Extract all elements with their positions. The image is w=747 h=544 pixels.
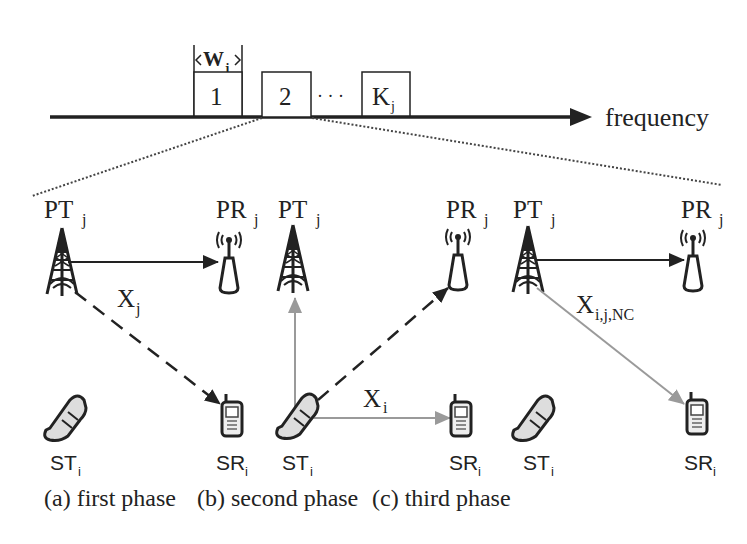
svg-text:j: j	[718, 211, 723, 229]
sr-label: SR	[684, 451, 713, 474]
svg-text:j: j	[135, 300, 140, 318]
signal-label: X	[363, 385, 381, 412]
panel-third-phase: PT j PR j X i,j,NC ST i SR i (c) third p…	[372, 196, 723, 511]
mobile-phone-icon	[222, 394, 242, 436]
link-st-pr	[318, 288, 448, 400]
svg-text:j: j	[483, 211, 488, 229]
cognitive-radio-phases-diagram: frequency W j 1 2 · · · K j PT	[0, 0, 747, 544]
svg-text:1: 1	[210, 83, 223, 110]
caption-first-phase: (a) first phase	[44, 485, 176, 511]
mobile-phone-icon	[451, 394, 471, 436]
sr-label: SR	[449, 451, 478, 474]
frequency-axis: frequency W j 1 2 · · · K j	[50, 45, 709, 132]
svg-text:j: j	[315, 211, 320, 229]
channel-2: 2	[262, 72, 311, 117]
caption-second-phase: (b) second phase	[197, 485, 358, 511]
channel-k: K j	[362, 72, 410, 116]
left-arrow-icon	[196, 55, 201, 65]
svg-text:i,j,NC: i,j,NC	[595, 306, 634, 324]
mobile-phone-icon	[687, 392, 707, 434]
svg-text:i: i	[78, 464, 81, 479]
pr-label: PR	[216, 196, 247, 223]
receiver-antenna-icon	[681, 230, 705, 291]
pt-label: PT	[278, 196, 307, 223]
svg-text:i: i	[383, 399, 388, 416]
signal-label: X	[117, 285, 135, 312]
svg-text:j: j	[81, 211, 86, 229]
transmitter-tower-icon	[278, 225, 308, 293]
svg-text:i: i	[245, 464, 248, 479]
svg-text:i: i	[310, 464, 313, 479]
svg-text:j: j	[253, 211, 258, 229]
st-label: ST	[282, 451, 309, 474]
sr-label: SR	[216, 451, 245, 474]
svg-text:j: j	[550, 211, 555, 229]
bandwidth-label: W	[203, 47, 224, 71]
channel-ellipsis: · · ·	[317, 86, 344, 106]
st-label: ST	[50, 451, 77, 474]
channel-1: 1	[194, 72, 242, 116]
axis-arrow-icon	[570, 108, 592, 126]
signal-label: X	[576, 291, 594, 318]
flip-phone-icon	[277, 394, 318, 439]
panel-first-phase: PT j PR j X j ST i SR i (a) first phase	[44, 196, 258, 511]
svg-text:i: i	[551, 464, 554, 479]
flip-phone-icon	[45, 396, 86, 441]
st-label: ST	[523, 451, 550, 474]
svg-text:K: K	[372, 83, 390, 110]
flip-phone-icon	[513, 396, 554, 441]
receiver-antenna-icon	[217, 232, 241, 293]
link-pt-sr	[75, 292, 220, 404]
svg-text:2: 2	[279, 83, 292, 110]
svg-text:i: i	[713, 464, 716, 479]
svg-text:j: j	[390, 99, 395, 114]
pr-label: PR	[446, 196, 477, 223]
right-arrow-icon	[235, 55, 240, 65]
svg-text:i: i	[478, 464, 481, 479]
frequency-label: frequency	[605, 103, 709, 132]
receiver-antenna-icon	[446, 229, 470, 290]
zoom-line-left	[32, 118, 262, 196]
pt-label: PT	[44, 196, 73, 223]
pt-label: PT	[513, 196, 542, 223]
caption-third-phase: (c) third phase	[372, 485, 511, 511]
pr-label: PR	[681, 196, 712, 223]
